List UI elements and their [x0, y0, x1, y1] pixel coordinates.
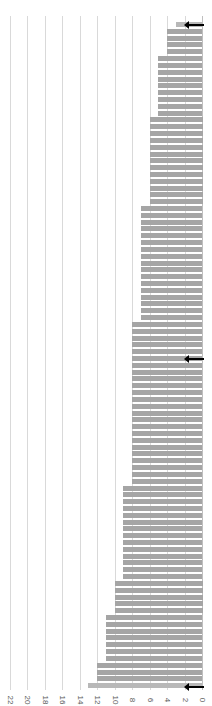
- bar: 5: [158, 77, 202, 82]
- bar: 11: [106, 656, 202, 661]
- arrow-icon: [188, 686, 204, 688]
- bar: 8: [132, 472, 202, 477]
- gridline: [62, 16, 63, 690]
- axis-tick-label: 12: [91, 690, 103, 706]
- bar: 6: [150, 124, 203, 129]
- bar: 8: [132, 438, 202, 443]
- bar: 8: [132, 322, 202, 327]
- bar: 12: [97, 663, 202, 668]
- bar: 6: [150, 192, 203, 197]
- bar: 8: [132, 363, 202, 368]
- bar: 10: [115, 601, 203, 606]
- axis-tick-label: 22: [4, 690, 16, 706]
- bar: 9: [123, 526, 202, 531]
- bar: 8: [132, 349, 202, 354]
- bar: 7: [141, 220, 202, 225]
- bar: 8: [132, 376, 202, 381]
- bar: 7: [141, 213, 202, 218]
- bar: 6: [150, 152, 203, 157]
- gridline: [27, 16, 28, 690]
- axis-tick-label: 0: [196, 690, 208, 706]
- bar: 5: [158, 70, 202, 75]
- bar: 8: [132, 458, 202, 463]
- bar: 8: [132, 479, 202, 484]
- bar: 7: [141, 301, 202, 306]
- axis-tick-label: 2: [179, 690, 191, 706]
- bar: 4: [167, 29, 202, 34]
- bar: 7: [141, 261, 202, 266]
- bar: 6: [150, 138, 203, 143]
- bar: 5: [158, 97, 202, 102]
- axis-tick-label: 20: [21, 690, 33, 706]
- bar: 10: [115, 608, 203, 613]
- gridline: [45, 16, 46, 690]
- bar: 7: [141, 247, 202, 252]
- bar: 8: [132, 445, 202, 450]
- bar: 11: [106, 622, 202, 627]
- arrow-icon: [188, 358, 204, 360]
- axis-tick-label: 16: [56, 690, 68, 706]
- bar: 11: [106, 649, 202, 654]
- bar: 6: [150, 117, 203, 122]
- bar: 7: [141, 240, 202, 245]
- bar: 10: [115, 581, 203, 586]
- bar: 7: [141, 288, 202, 293]
- bar: 9: [123, 492, 202, 497]
- bar: 6: [150, 199, 203, 204]
- bar: 9: [123, 554, 202, 559]
- bar: 6: [150, 165, 203, 170]
- bar: 10: [115, 588, 203, 593]
- arrow-icon: [188, 24, 204, 26]
- bar: 4: [167, 42, 202, 47]
- bar: 6: [150, 131, 203, 136]
- bar: 5: [158, 63, 202, 68]
- bar: 5: [158, 104, 202, 109]
- bar: 9: [123, 513, 202, 518]
- bar: 7: [141, 254, 202, 259]
- bar: 7: [141, 267, 202, 272]
- bar: 6: [150, 158, 203, 163]
- bar: 9: [123, 486, 202, 491]
- gridline: [80, 16, 81, 690]
- bar: 8: [132, 451, 202, 456]
- bar: 8: [132, 424, 202, 429]
- bar: 7: [141, 226, 202, 231]
- bar: 11: [106, 642, 202, 647]
- axis-tick-label: 4: [161, 690, 173, 706]
- bar: 9: [123, 533, 202, 538]
- bar: 4: [167, 49, 202, 54]
- bar: 9: [123, 547, 202, 552]
- bar: 5: [158, 56, 202, 61]
- bar: 6: [150, 186, 203, 191]
- bar: 7: [141, 281, 202, 286]
- bar: 8: [132, 370, 202, 375]
- gridline: [10, 16, 11, 690]
- bar: 7: [141, 233, 202, 238]
- bar: 8: [132, 329, 202, 334]
- bar: 8: [132, 390, 202, 395]
- axis-tick-label: 8: [126, 690, 138, 706]
- bar: 8: [132, 336, 202, 341]
- bar: 7: [141, 206, 202, 211]
- axis-tick-label: 6: [144, 690, 156, 706]
- bar: 9: [123, 520, 202, 525]
- bar: 12: [97, 676, 202, 681]
- axis-tick-label: 18: [39, 690, 51, 706]
- bar: 6: [150, 172, 203, 177]
- bar: 8: [132, 411, 202, 416]
- bar: 7: [141, 274, 202, 279]
- bar: 9: [123, 574, 202, 579]
- bar: 8: [132, 431, 202, 436]
- bar: 8: [132, 404, 202, 409]
- bar: 7: [141, 295, 202, 300]
- axis-tick-label: 14: [74, 690, 86, 706]
- bar: 9: [123, 506, 202, 511]
- bar: 8: [132, 342, 202, 347]
- bar: 5: [158, 111, 202, 116]
- bar: 9: [123, 560, 202, 565]
- bar: 11: [106, 615, 202, 620]
- gridline: [97, 16, 98, 690]
- bar: 11: [106, 635, 202, 640]
- bar: 7: [141, 315, 202, 320]
- bar: 6: [150, 145, 203, 150]
